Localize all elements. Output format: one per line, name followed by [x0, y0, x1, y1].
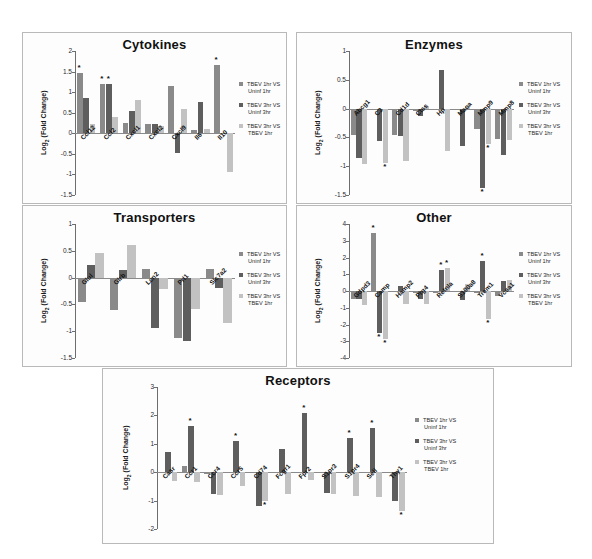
legend-swatch-icon	[519, 294, 523, 298]
x-tick-label: Maoa	[456, 100, 473, 117]
y-tick-mark	[346, 358, 349, 359]
y-tick-label: 3	[137, 383, 154, 390]
y-tick-label: 1	[329, 47, 346, 54]
bar	[100, 84, 106, 133]
bar	[383, 291, 388, 339]
legend-label-line2: TBEV 1hr	[527, 130, 560, 137]
legend-item: TBEV 1hr VSUninf 1hr	[239, 251, 280, 265]
significance-marker: *	[232, 433, 238, 439]
legend-label-line1: TBEV 3hr VS	[423, 459, 456, 465]
legend-label-line2: Uninf 1hr	[527, 258, 560, 265]
y-tick-mark	[72, 51, 75, 52]
legend-item: TBEV 3hr VSUninf 3hr	[415, 438, 456, 452]
x-tick-label: Retnla	[435, 280, 454, 299]
plot-area: Log2 (Fold Change)3210-1-2Casr*Ccr1Ccr4*…	[157, 387, 407, 529]
bar	[302, 413, 308, 473]
y-tick-label: 1	[137, 440, 154, 447]
legend-swatch-icon	[415, 418, 419, 422]
legend-label-line1: TBEV 3hr VS	[527, 102, 560, 108]
significance-marker: *	[479, 189, 485, 195]
legend-label-line2: Uninf 3hr	[527, 279, 560, 286]
bar	[168, 86, 174, 133]
bar	[223, 278, 231, 324]
bar	[383, 109, 388, 163]
bar	[507, 109, 512, 141]
significance-marker: *	[485, 320, 491, 326]
legend-item: TBEV 1hr VSUninf 1hr	[519, 81, 560, 95]
y-tick-label: -1	[329, 304, 346, 311]
bar	[191, 278, 199, 310]
y-tick-label: 1	[55, 88, 72, 95]
bar	[285, 472, 291, 494]
legend-item: TBEV 1hr VSUninf 1hr	[415, 417, 456, 431]
legend-label-line2: TBEV 1hr	[527, 300, 560, 307]
bar	[371, 233, 376, 291]
y-tick-label: -1.5	[329, 191, 346, 198]
legend-swatch-icon	[519, 124, 523, 128]
legend-swatch-icon	[415, 439, 419, 443]
bar	[77, 73, 83, 133]
legend-swatch-icon	[519, 82, 523, 86]
y-tick-mark	[346, 51, 349, 52]
y-tick-label: 2	[55, 47, 72, 54]
legend-label-line1: TBEV 3hr VS	[527, 123, 560, 129]
bar	[95, 253, 103, 277]
bar	[127, 245, 135, 277]
y-tick-label: 0	[137, 468, 154, 475]
y-tick-mark	[72, 331, 75, 332]
bar	[217, 472, 223, 495]
panel-title: Receptors	[103, 373, 493, 388]
legend-swatch-icon	[519, 103, 523, 107]
legend-swatch-icon	[519, 273, 523, 277]
legend-item: TBEV 3hr VSTBEV 1hr	[519, 293, 560, 307]
y-tick-mark	[154, 444, 157, 445]
legend-label-line1: TBEV 3hr VS	[423, 438, 456, 444]
panel-cytokines: Cytokines Log2 (Fold Change)21.510.50-0.…	[22, 32, 287, 204]
y-axis-label: Log2 (Fold Change)	[314, 51, 323, 195]
y-tick-label: -1	[137, 497, 154, 504]
y-tick-label: 0.5	[329, 76, 346, 83]
y-axis	[75, 224, 76, 358]
y-tick-label: -1	[55, 170, 72, 177]
legend-label-line2: Uninf 1hr	[423, 424, 456, 431]
bar	[214, 65, 220, 133]
y-tick-label: 4	[329, 220, 346, 227]
significance-marker: *	[444, 260, 450, 266]
bar	[486, 109, 491, 145]
y-tick-label: 1.5	[55, 68, 72, 75]
y-tick-mark	[72, 358, 75, 359]
y-tick-mark	[346, 274, 349, 275]
legend-label-line2: Uninf 1hr	[247, 88, 280, 95]
x-tick-label: Glul	[80, 272, 94, 286]
significance-marker: *	[369, 420, 375, 426]
y-tick-label: 2	[137, 411, 154, 418]
bar	[204, 129, 210, 134]
x-tick-label: S100a8	[456, 278, 477, 299]
legend-swatch-icon	[239, 124, 243, 128]
y-axis-label: Log2 (Fold Change)	[40, 224, 49, 358]
legend-item: TBEV 3hr VSTBEV 1hr	[415, 459, 456, 473]
legend-label-line1: TBEV 1hr VS	[527, 81, 560, 87]
bar	[486, 291, 491, 319]
y-tick-label: -0.5	[329, 133, 346, 140]
y-tick-mark	[346, 308, 349, 309]
legend-swatch-icon	[239, 103, 243, 107]
bar	[353, 472, 359, 496]
y-axis-label: Log2 (Fold Change)	[40, 51, 49, 195]
legend: TBEV 1hr VSUninf 1hrTBEV 3hr VSUninf 3hr…	[415, 417, 456, 480]
y-tick-label: -1.5	[55, 354, 72, 361]
y-tick-label: 0.5	[55, 247, 72, 254]
y-axis	[157, 387, 158, 529]
significance-marker: *	[398, 512, 404, 518]
bar	[362, 291, 367, 305]
bar	[376, 472, 382, 497]
significance-marker: *	[382, 340, 388, 346]
legend-label-line1: TBEV 3hr VS	[527, 272, 560, 278]
y-tick-label: 0	[55, 129, 72, 136]
bar	[362, 109, 367, 164]
bar	[262, 472, 268, 501]
bar	[403, 109, 408, 161]
y-tick-mark	[154, 501, 157, 502]
y-tick-mark	[72, 154, 75, 155]
bar	[151, 278, 159, 328]
